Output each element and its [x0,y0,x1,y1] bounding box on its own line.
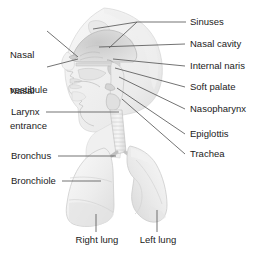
label-nasal-entrance-line1: Nasal [10,85,47,97]
label-right-lung: Right lung [70,234,124,246]
lungs [66,146,167,226]
label-bronchiole: Bronchiole [11,175,56,187]
label-sinuses: Sinuses [190,16,224,28]
leader-trachea [122,99,185,154]
label-soft-palate: Soft palate [190,81,235,93]
label-left-lung: Left lung [134,234,182,246]
label-epiglottis: Epiglottis [190,128,229,140]
label-nasal-vestibule-line1: Nasal [10,49,48,61]
label-nasal-entrance-line2: entrance [10,120,47,132]
label-internal-naris: Internal naris [190,60,245,72]
label-nasal-cavity: Nasal cavity [190,38,241,50]
label-trachea: Trachea [190,148,225,160]
label-nasopharynx: Nasopharynx [190,103,246,115]
respiratory-system-figure: Nasal vestibule Nasal entrance Larynx Br… [0,0,261,257]
label-bronchus: Bronchus [11,150,51,162]
label-larynx: Larynx [11,106,40,118]
